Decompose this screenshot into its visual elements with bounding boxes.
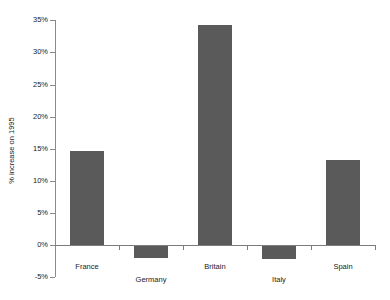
- x-axis-category-label: Spain: [303, 262, 383, 271]
- bar: [326, 160, 360, 245]
- y-axis-line: [55, 20, 56, 277]
- y-axis-tick: [50, 52, 55, 53]
- y-axis-tick-label-text: 30%: [4, 48, 48, 56]
- x-axis-category-label: Britain: [175, 262, 255, 271]
- bar: [134, 245, 168, 258]
- x-axis-tick: [183, 245, 184, 250]
- y-axis-tick-label: 5%: [0, 209, 48, 217]
- y-axis-tick-label: 25%: [0, 81, 48, 89]
- y-axis-tick-label: 30%: [0, 48, 48, 56]
- bar: [70, 151, 104, 245]
- x-axis-tick: [247, 245, 248, 250]
- y-axis-tick: [50, 149, 55, 150]
- y-axis-tick: [50, 117, 55, 118]
- y-axis-tick-label-text: 25%: [4, 81, 48, 89]
- y-axis-tick-label-text: 5%: [4, 209, 48, 217]
- y-axis-tick: [50, 85, 55, 86]
- x-axis-zero-line: [55, 245, 375, 246]
- y-axis-tick: [50, 277, 55, 278]
- y-axis-tick: [50, 181, 55, 182]
- y-axis-tick: [50, 20, 55, 21]
- x-axis-category-label: Germany: [111, 275, 191, 284]
- x-axis-tick: [311, 245, 312, 250]
- x-axis-tick: [119, 245, 120, 250]
- y-axis-tick-label-text: 0%: [4, 241, 48, 249]
- y-axis-tick-label: 0%: [0, 241, 48, 249]
- y-axis-tick-label-text: -5%: [4, 273, 48, 281]
- x-axis-category-label: Italy: [239, 275, 319, 284]
- x-axis-tick: [375, 245, 376, 250]
- bar: [198, 25, 232, 245]
- x-axis-category-label: France: [47, 262, 127, 271]
- y-axis-tick-label: -5%: [0, 273, 48, 281]
- y-axis-title: % increase on 1995: [7, 101, 16, 201]
- y-axis-tick: [50, 213, 55, 214]
- bar-chart: 35%30%25%20%15%10%5%0%-5% % increase on …: [0, 0, 390, 300]
- y-axis-tick-label-text: 35%: [4, 16, 48, 24]
- bar: [262, 245, 296, 259]
- y-axis-tick-label: 35%: [0, 16, 48, 24]
